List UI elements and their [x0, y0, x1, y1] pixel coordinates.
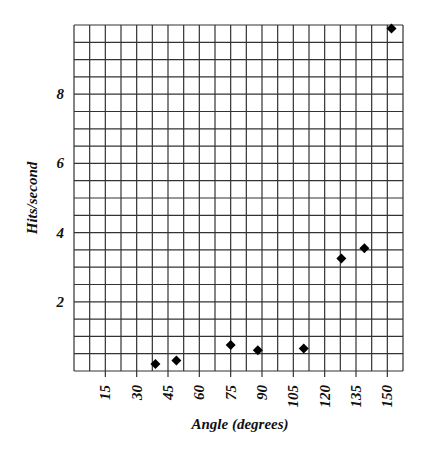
y-tick-label: 6 [57, 155, 65, 171]
x-tick-label: 75 [223, 385, 239, 401]
x-axis-title: Angle (degrees) [190, 416, 288, 433]
x-tick-label: 30 [129, 385, 145, 402]
diamond-marker [226, 340, 236, 350]
x-tick-label: 90 [254, 385, 270, 401]
diamond-marker [359, 243, 369, 253]
y-tick-label: 4 [56, 225, 65, 241]
y-tick-label: 2 [56, 294, 65, 310]
x-tick-label: 45 [160, 385, 176, 402]
plot-grid [74, 25, 403, 371]
x-tick-label: 105 [285, 385, 301, 408]
x-tick-label: 60 [191, 385, 207, 401]
diamond-marker [336, 254, 346, 264]
x-tick-label: 120 [317, 385, 333, 408]
x-axis-tick-labels: 153045607590105120135150 [97, 371, 395, 408]
diamond-marker [171, 356, 181, 366]
y-tick-label: 8 [57, 86, 65, 102]
x-tick-label: 15 [97, 385, 113, 401]
data-points [150, 23, 396, 369]
scatter-chart: 2468 153045607590105120135150 Angle (deg… [0, 0, 428, 452]
x-tick-label: 135 [348, 385, 364, 408]
y-axis-tick-labels: 2468 [56, 86, 65, 310]
y-axis-title: Hits/second [24, 161, 40, 235]
diamond-marker [299, 344, 309, 354]
x-tick-label: 150 [379, 385, 395, 408]
